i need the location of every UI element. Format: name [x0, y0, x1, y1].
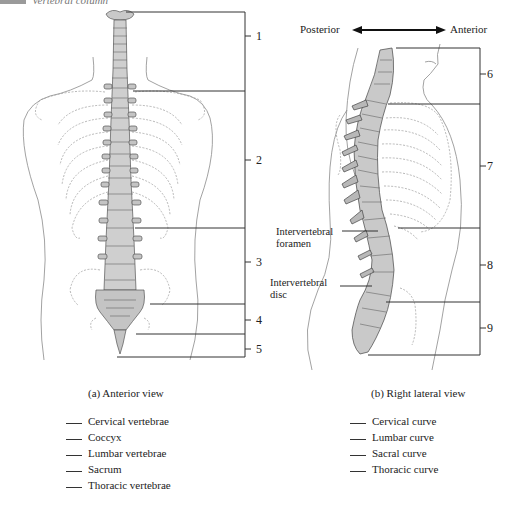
- caption-anterior-view: (a) Anterior view: [88, 387, 164, 399]
- answer-item: Lumbar vertebrae: [66, 445, 171, 461]
- answer-blank[interactable]: [350, 439, 366, 440]
- leader-number-3: 3: [256, 255, 262, 270]
- leader-number-2: 2: [256, 153, 262, 168]
- answer-blank[interactable]: [66, 455, 82, 456]
- answer-item: Cervical vertebrae: [66, 413, 171, 429]
- orientation-posterior: Posterior: [300, 23, 340, 35]
- leader-number-9: 9: [487, 321, 493, 336]
- answer-item: Cervical curve: [350, 413, 438, 429]
- label-intervertebral-foramen: Intervertebral foramen: [276, 226, 333, 250]
- answer-item: Thoracic curve: [350, 461, 438, 477]
- answer-blank[interactable]: [66, 471, 82, 472]
- answer-blank[interactable]: [350, 423, 366, 424]
- caption-right-lateral-view: (b) Right lateral view: [371, 387, 465, 399]
- answer-blank[interactable]: [66, 439, 82, 440]
- orientation-anterior: Anterior: [450, 23, 487, 35]
- answer-item: Coccyx: [66, 429, 171, 445]
- lateral-rib-cage: [336, 103, 451, 345]
- label-intervertebral-disc: Intervertebral disc: [270, 277, 327, 301]
- answer-blank[interactable]: [350, 471, 366, 472]
- leader-number-4: 4: [256, 313, 262, 328]
- answer-item: Lumbar curve: [350, 429, 438, 445]
- leader-number-6: 6: [487, 67, 493, 82]
- answer-item: Thoracic vertebrae: [66, 477, 171, 493]
- leader-number-5: 5: [256, 342, 262, 357]
- answer-item: Sacral curve: [350, 445, 438, 461]
- answer-blank[interactable]: [66, 423, 82, 424]
- answer-blank[interactable]: [66, 487, 82, 488]
- leader-number-7: 7: [487, 159, 493, 174]
- leader-number-8: 8: [487, 258, 493, 273]
- lateral-answer-list: Cervical curve Lumbar curve Sacral curve…: [350, 413, 438, 477]
- answer-item: Sacrum: [66, 461, 171, 477]
- answer-blank[interactable]: [350, 455, 366, 456]
- orientation-arrow: [352, 26, 446, 34]
- anterior-answer-list: Cervical vertebrae Coccyx Lumbar vertebr…: [66, 413, 171, 493]
- leader-number-1: 1: [256, 29, 262, 44]
- lateral-vertebral-column: [342, 48, 394, 354]
- anterior-vertebral-column: [96, 10, 145, 354]
